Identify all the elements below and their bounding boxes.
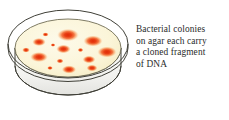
agar-surface	[15, 19, 121, 77]
colony-12	[47, 66, 53, 70]
colony-4	[83, 35, 103, 47]
caption-line-4: of DNA	[136, 59, 228, 71]
petri-dish-illustration	[4, 4, 132, 116]
caption-line-1: Bacterial colonies	[136, 24, 228, 36]
colony-13	[62, 65, 77, 74]
colony-3	[32, 38, 46, 47]
petri-dish-figure: Bacterial colonies on agar each carry a …	[0, 0, 229, 120]
colony-5	[22, 47, 30, 53]
caption-line-3: a cloned fragment	[136, 47, 228, 59]
colony-10	[56, 59, 64, 64]
colony-1	[57, 29, 80, 42]
colony-7	[78, 48, 84, 53]
colony-15	[51, 43, 56, 47]
colony-11	[82, 56, 96, 64]
colony-9	[30, 52, 49, 63]
petri-dish-svg	[4, 4, 132, 116]
colony-14	[86, 65, 98, 72]
colony-6	[56, 45, 71, 54]
caption-line-2: on agar each carry	[136, 36, 228, 48]
caption-block: Bacterial colonies on agar each carry a …	[136, 24, 228, 70]
colony-8	[97, 46, 117, 58]
colony-2	[42, 32, 49, 37]
